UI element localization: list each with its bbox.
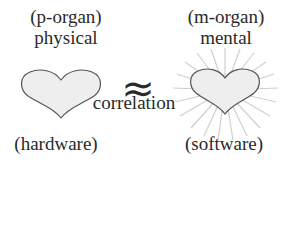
left-bottom-label: (hardware)	[6, 134, 106, 154]
correlation-label: correlation	[84, 93, 184, 113]
right-bottom-label: (software)	[174, 134, 274, 154]
